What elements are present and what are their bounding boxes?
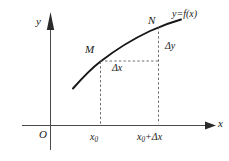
x-tick-x0: x0	[90, 132, 98, 144]
delta-y-label: Δy	[165, 41, 175, 51]
y-axis-arrowhead	[47, 12, 54, 30]
origin-label: O	[39, 129, 47, 140]
point-m-label: M	[85, 44, 94, 55]
x-tick-x0-subscript: 0	[94, 136, 98, 144]
y-axis-label: y	[36, 16, 41, 27]
x-tick-x0dx-tail: +Δx	[145, 131, 162, 142]
point-n-label: N	[148, 15, 155, 26]
x-axis-arrowhead	[205, 122, 216, 130]
delta-x-label: Δx	[112, 63, 122, 73]
x-tick-x0-plus-dx: x0+Δx	[137, 132, 162, 144]
x-axis-label: x	[218, 118, 223, 129]
curve-equation-label: y=f(x)	[172, 9, 197, 19]
calculus-increment-figure: y x O M N y=f(x) Δx Δy x0 x0+Δx	[0, 0, 229, 161]
figure-canvas	[0, 0, 229, 161]
